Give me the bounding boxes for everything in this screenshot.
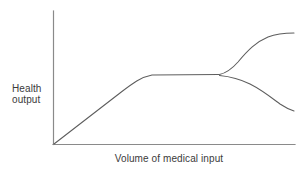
x-axis-label: Volume of medical input xyxy=(115,153,224,164)
figure-background xyxy=(0,0,307,172)
y-axis-label-line2: output xyxy=(12,94,41,105)
y-axis-label-line1: Health xyxy=(12,83,42,94)
health-output-curve-figure: Health output Volume of medical input xyxy=(0,0,307,172)
